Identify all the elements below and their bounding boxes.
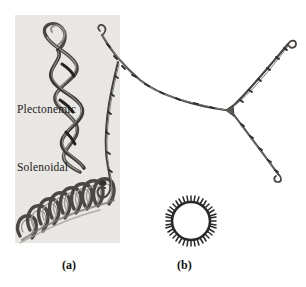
branched-duplex xyxy=(226,41,296,182)
figure-illustration xyxy=(0,0,306,287)
caption-panel-b: (b) xyxy=(177,258,192,273)
label-plectonemic: Plectonemic xyxy=(17,103,76,115)
circular-dna-ring xyxy=(166,196,216,246)
dna-supercoiling-figure: Plectonemic Solenoidal (a) (b) xyxy=(0,0,306,287)
caption-panel-a: (a) xyxy=(62,258,76,273)
label-solenoidal: Solenoidal xyxy=(17,161,68,173)
